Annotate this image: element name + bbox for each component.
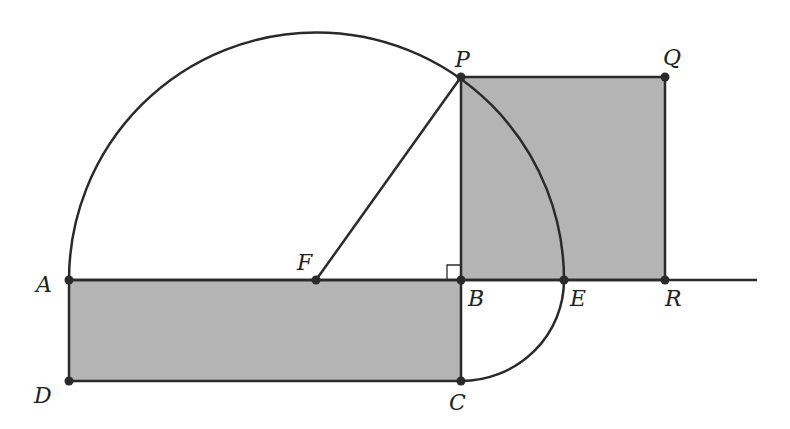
label-r: R <box>664 286 682 311</box>
point-e <box>560 276 569 285</box>
label-d: D <box>33 383 52 408</box>
point-a <box>65 276 74 285</box>
geometry-diagram: A B C D E F P Q R <box>0 0 790 429</box>
point-d <box>65 377 74 386</box>
point-p <box>457 73 466 82</box>
point-q <box>661 73 670 82</box>
label-f: F <box>296 250 313 275</box>
segment-fp <box>316 77 461 280</box>
label-e: E <box>569 286 586 311</box>
point-r <box>661 276 670 285</box>
label-a: A <box>34 272 52 297</box>
label-q: Q <box>663 45 681 70</box>
point-f <box>312 276 321 285</box>
point-c <box>457 377 466 386</box>
label-p: P <box>454 47 471 72</box>
label-c: C <box>449 390 466 415</box>
point-b <box>457 276 466 285</box>
rectangle-abcd <box>69 280 461 381</box>
label-b: B <box>467 286 484 311</box>
